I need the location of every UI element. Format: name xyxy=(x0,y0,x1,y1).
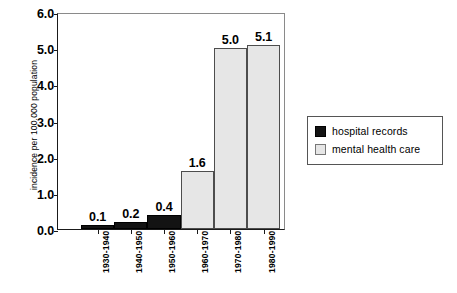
bar-value-label: 1.6 xyxy=(189,156,206,170)
y-axis-tick-label: 3.0 xyxy=(37,116,54,130)
bar-1980-1990: 5.1 xyxy=(247,45,280,229)
chart-legend: hospital recordsmental health care xyxy=(307,116,443,165)
y-axis-tick-label: 5.0 xyxy=(37,43,54,57)
bar-value-label: 0.2 xyxy=(122,207,139,221)
bar-chart-figure: incidence per 100.000 population 6.05.04… xyxy=(0,0,457,293)
legend-swatch-icon xyxy=(315,144,326,155)
x-axis-tick-label: 1970-1980 xyxy=(233,231,243,273)
bar-1940-1950: 0.2 xyxy=(114,222,147,229)
y-axis-tick-label: 2.0 xyxy=(37,152,54,166)
y-axis-tick-label: 0.0 xyxy=(37,224,54,238)
bar-value-label: 5.1 xyxy=(255,30,272,44)
bar-value-label: 0.4 xyxy=(155,200,172,214)
x-axis-tick-mark xyxy=(230,229,231,234)
x-axis-tick-label: 1950-1960 xyxy=(167,231,177,273)
bar-1970-1980: 5.0 xyxy=(214,48,247,229)
x-axis-tick-mark xyxy=(131,229,132,234)
x-axis-tick-label: 1930-1940 xyxy=(101,231,111,273)
x-axis-tick-mark xyxy=(197,229,198,234)
x-axis-tick-mark xyxy=(264,229,265,234)
y-axis-tick-label: 4.0 xyxy=(37,79,54,93)
y-axis-tick-label: 6.0 xyxy=(37,7,54,21)
legend-label: mental health care xyxy=(332,143,420,155)
bar-1960-1970: 1.6 xyxy=(181,171,214,229)
legend-item: hospital records xyxy=(315,122,435,140)
y-axis-tick-label: 1.0 xyxy=(37,188,54,202)
legend-swatch-icon xyxy=(315,126,326,137)
bar-value-label: 0.1 xyxy=(89,210,106,224)
x-axis-tick-mark xyxy=(98,229,99,234)
x-axis-tick-label: 1960-1970 xyxy=(200,231,210,273)
x-axis-tick-label: 1940-1950 xyxy=(134,231,144,273)
x-axis-tick-mark xyxy=(164,229,165,234)
bar-value-label: 5.0 xyxy=(222,33,239,47)
bar-1950-1960: 0.4 xyxy=(147,215,180,229)
bar-group: 0.10.20.41.65.05.1 xyxy=(58,14,284,229)
legend-label: hospital records xyxy=(332,125,408,137)
legend-item: mental health care xyxy=(315,140,435,158)
plot-area: 6.05.04.03.02.01.00.0 0.10.20.41.65.05.1 xyxy=(57,13,285,230)
x-axis-tick-label: 1980-1990 xyxy=(267,231,277,273)
y-axis-tick-mark xyxy=(54,231,59,232)
